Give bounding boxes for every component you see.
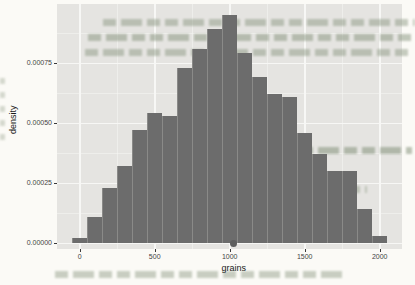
x-axis-title: grains	[204, 263, 264, 273]
histogram-bar	[132, 130, 147, 243]
histogram-bar	[267, 94, 282, 243]
y-tick-mark	[54, 63, 57, 64]
x-tick-mark	[305, 249, 306, 252]
x-tick-mark	[380, 249, 381, 252]
x-tick-label: 0	[60, 253, 100, 261]
data-point-marker	[230, 240, 237, 247]
histogram-bar	[162, 116, 177, 243]
histogram-bar	[372, 236, 387, 243]
y-axis-title: density	[8, 105, 18, 134]
y-tick-label: 0.00000	[18, 239, 52, 247]
histogram-bar	[327, 171, 342, 243]
histogram-bar	[72, 238, 87, 243]
y-tick-label: 0.00050	[18, 119, 52, 127]
plot-panel	[57, 4, 402, 249]
y-tick-label: 0.00075	[18, 59, 52, 67]
x-tick-label: 2000	[360, 253, 400, 261]
x-tick-label: 1000	[210, 253, 250, 261]
histogram-bar	[192, 49, 207, 243]
x-tick-mark	[230, 249, 231, 252]
x-tick-mark	[80, 249, 81, 252]
bleed-text-line	[55, 271, 345, 278]
bleed-text-edge-marks	[0, 78, 5, 140]
y-tick-mark	[54, 183, 57, 184]
histogram-bar	[177, 68, 192, 243]
histogram-bars-layer	[57, 4, 402, 249]
histogram-bar	[102, 188, 117, 243]
y-tick-mark	[54, 243, 57, 244]
x-tick-label: 1500	[285, 253, 325, 261]
histogram-bar	[252, 77, 267, 243]
histogram-bar	[357, 209, 372, 243]
histogram-bar	[147, 113, 162, 243]
scanned-book-page: 0.000000.000250.000500.00075050010001500…	[0, 0, 415, 285]
histogram-bar	[342, 171, 357, 243]
histogram-bar	[87, 217, 102, 243]
x-tick-label: 500	[135, 253, 175, 261]
histogram-bar	[117, 166, 132, 243]
histogram-bar	[222, 15, 237, 243]
y-tick-mark	[54, 123, 57, 124]
histogram-bar	[312, 154, 327, 243]
x-tick-mark	[155, 249, 156, 252]
y-tick-label: 0.00025	[18, 179, 52, 187]
histogram-bar	[297, 133, 312, 243]
histogram-bar	[282, 97, 297, 243]
histogram-bar	[237, 53, 252, 243]
histogram-bar	[207, 29, 222, 243]
